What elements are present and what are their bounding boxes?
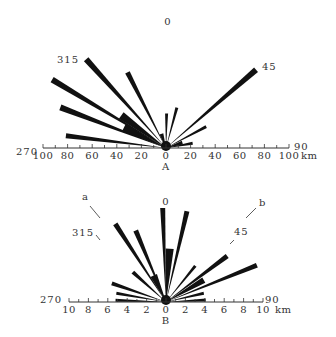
axis-tick-label: 4 (201, 304, 208, 315)
bearing-label-45: 45 (262, 61, 277, 72)
direction-marker-line (246, 208, 256, 218)
bearing-guide-line (230, 240, 234, 244)
axis-tick-label: 80 (61, 150, 75, 161)
panel-title: A (161, 161, 170, 172)
bearing-label-315: 315 (72, 227, 94, 238)
bearing-label-90: 90 (294, 141, 309, 152)
direction-marker-b: b (259, 197, 266, 208)
axis-tick-label: 2 (143, 304, 150, 315)
rose-diagram-a: 10080604020020406080100km03154527090A (16, 16, 318, 172)
bearing-label-45: 45 (234, 226, 249, 237)
panel-title: B (162, 315, 170, 326)
rose-petal (166, 68, 258, 149)
axis-tick-label: 0 (163, 150, 170, 161)
bearing-guide-line (96, 235, 100, 240)
rose-diagram-b: 1086420246810km03154527090Bab (40, 191, 292, 326)
axis-tick-label: 6 (221, 304, 228, 315)
bearing-label-0: 0 (164, 16, 171, 27)
axis-tick-label: 6 (104, 304, 111, 315)
bearing-label-270: 270 (40, 294, 62, 305)
rose-diagrams: 10080604020020406080100km03154527090A 10… (0, 0, 336, 337)
axis-tick-label: 8 (85, 304, 92, 315)
axis-tick-label: 0 (163, 304, 170, 315)
axis-tick-label: 20 (184, 150, 198, 161)
direction-marker-a: a (82, 191, 89, 202)
axis-tick-label: 4 (124, 304, 131, 315)
axis-tick-label: 40 (208, 150, 222, 161)
axis-tick-label: 10 (62, 304, 76, 315)
axis-tick-label: 80 (258, 150, 272, 161)
bearing-label-270: 270 (16, 146, 38, 157)
axis-tick-label: 2 (182, 304, 189, 315)
bearing-label-0: 0 (162, 196, 169, 207)
bearing-label-90: 90 (265, 294, 280, 305)
axis-tick-label: 60 (85, 150, 99, 161)
rose-petal (84, 57, 166, 148)
axis-unit-label: km (275, 304, 292, 315)
axis-tick-label: 10 (256, 304, 270, 315)
direction-marker-line (90, 206, 100, 218)
axis-tick-label: 40 (110, 150, 124, 161)
bearing-label-315: 315 (57, 54, 79, 65)
axis-tick-label: 8 (240, 304, 247, 315)
axis-tick-label: 20 (135, 150, 149, 161)
axis-tick-label: 60 (233, 150, 247, 161)
